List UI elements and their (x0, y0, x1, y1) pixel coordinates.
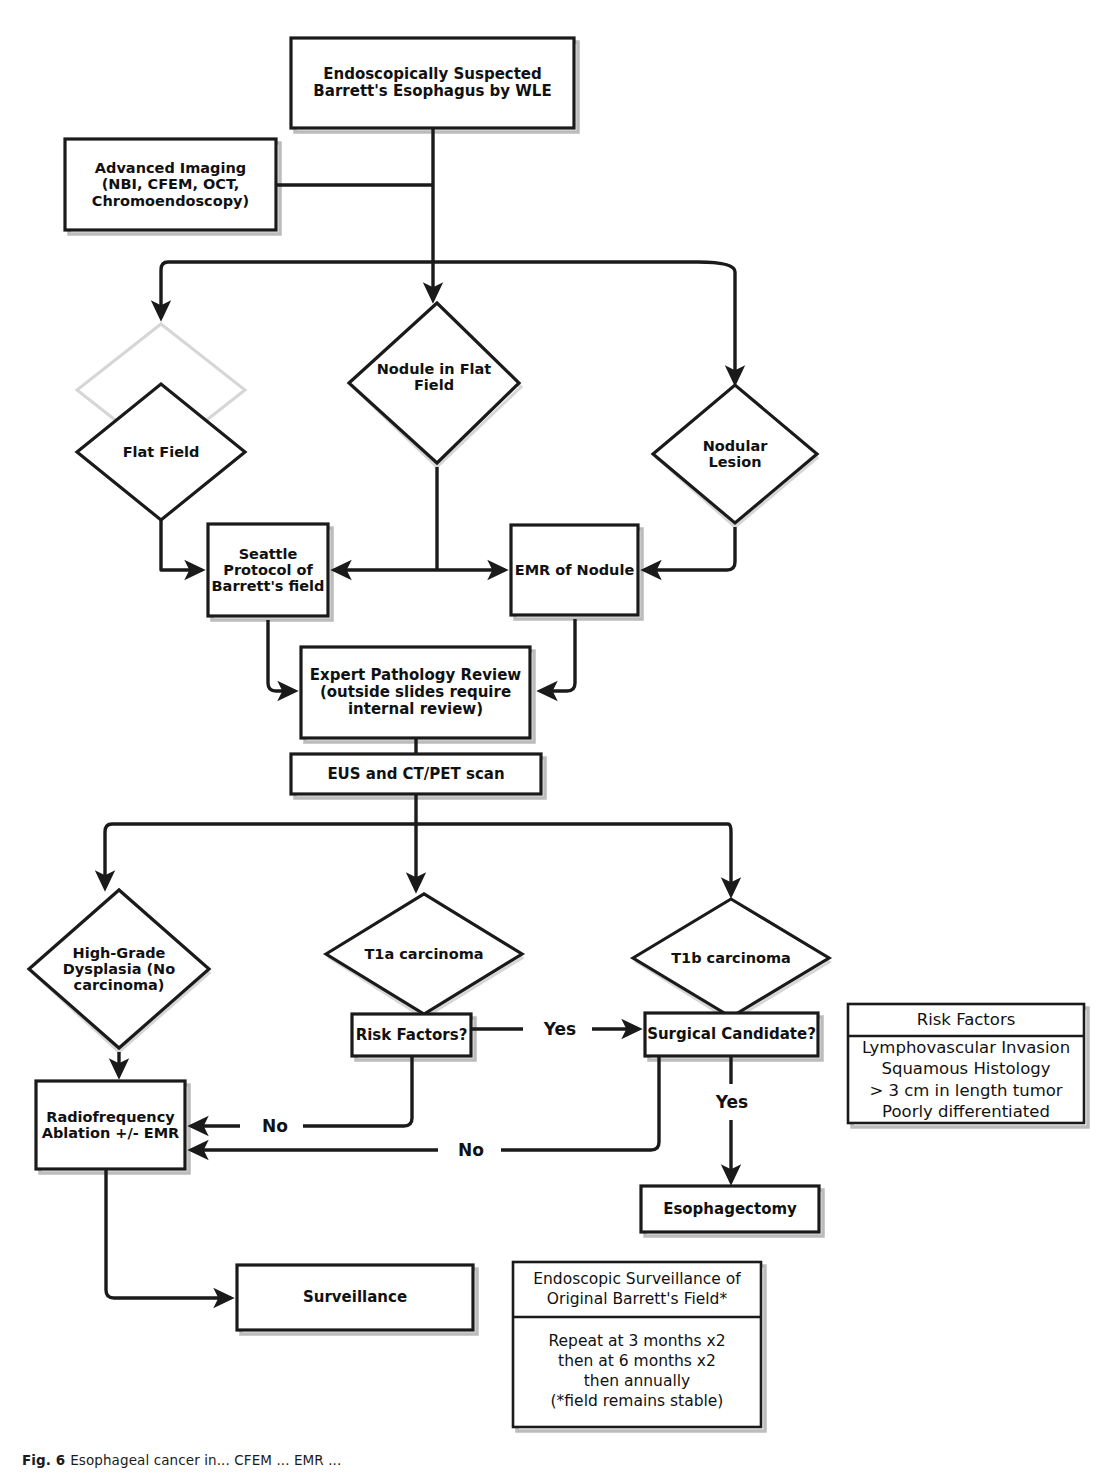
node-shape-surgical-candidate-question (645, 1013, 818, 1056)
box-shadow-layer (33, 42, 1088, 1431)
edge-rfa-to-surveillance (106, 1169, 231, 1298)
node-shape-nodular-lesion (653, 385, 817, 523)
endoscopic-surveillance-legend-body: Repeat at 3 months x2 then at 6 months x… (513, 1317, 761, 1427)
flowchart-canvas: Endoscopically Suspected Barrett's Esoph… (0, 0, 1098, 1472)
risk-factors-legend-header: Risk Factors (848, 1004, 1084, 1036)
node-shape-layer (29, 38, 1084, 1427)
node-shape-eus-and-ct-pet-scan (291, 754, 541, 794)
node-shape-radiofrequency-ablation (36, 1081, 185, 1169)
node-shape-risk-factors-question (352, 1014, 471, 1056)
node-shape-nodule-in-flat-field (349, 303, 519, 463)
edge-junction-right-drop (698, 262, 735, 383)
node-shape-t1a-carcinoma (326, 894, 522, 1014)
edge-nodular-lesion-to-emr (644, 527, 735, 570)
node-shape-advanced-imaging (65, 139, 276, 230)
node-shape-seattle-protocol (208, 524, 328, 616)
node-shape-high-grade-dysplasia (29, 890, 209, 1048)
edge-lower-right-drop (728, 824, 731, 895)
node-shape-flat-field (77, 384, 245, 520)
figure-caption: Fig. 6 Esophageal cancer in... CFEM ... … (22, 1452, 1082, 1472)
risk-factors-legend-body: Lymphovascular Invasion Squamous Histolo… (848, 1036, 1084, 1123)
endoscopic-surveillance-legend-header: Endoscopic Surveillance of Original Barr… (513, 1262, 761, 1317)
edge-seattle-to-pathology (268, 620, 295, 691)
edge-label-no-risk-factors: No (245, 1113, 305, 1139)
edge-label-yes-surgical: Yes (702, 1089, 762, 1115)
edge-label-no-surgical: No (441, 1137, 501, 1163)
figure-caption-label: Fig. 6 (22, 1452, 65, 1468)
flowchart-svg (0, 0, 1098, 1472)
node-shape-surveillance (237, 1265, 473, 1330)
edge-label-yes-t1a: Yes (530, 1016, 590, 1042)
edge-junction-left-drop (161, 262, 168, 318)
node-shape-emr-of-nodule (511, 525, 638, 615)
edge-surgical-no (501, 1056, 659, 1150)
node-shape-t1b-carcinoma (633, 899, 829, 1017)
edge-risk-factors-no (303, 1056, 412, 1126)
figure-caption-text: Esophageal cancer in... CFEM ... EMR ... (70, 1452, 341, 1468)
node-shape-start (291, 38, 574, 128)
node-shape-expert-pathology-review (301, 647, 530, 738)
edge-emr-to-pathology (540, 619, 575, 691)
node-shape-esophagectomy (641, 1186, 819, 1232)
edge-lower-left-drop (105, 824, 112, 888)
